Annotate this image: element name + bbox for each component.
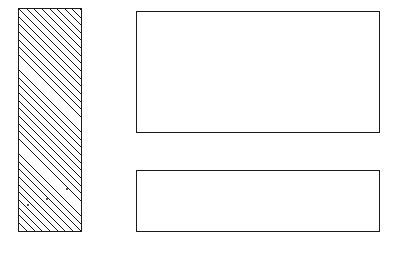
bottom-chart-series-layer [0, 0, 395, 262]
figure-root [0, 0, 395, 262]
